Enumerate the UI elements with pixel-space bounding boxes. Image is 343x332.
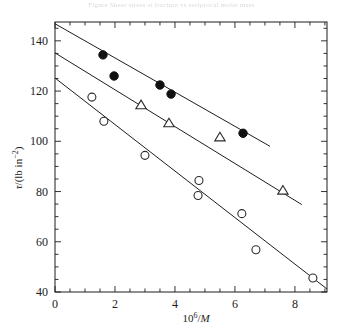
data-markers — [88, 51, 317, 282]
axis-ticks — [55, 22, 327, 292]
marker-open-circle — [88, 93, 96, 101]
axis-tick-labels: 40608010012014002468 — [30, 34, 298, 311]
marker-filled-circle — [156, 81, 164, 89]
marker-filled-circle — [167, 90, 175, 98]
marker-open-circle — [238, 210, 246, 218]
marker-open-triangle — [164, 118, 174, 127]
marker-filled-circle — [239, 129, 247, 137]
marker-filled-circle — [99, 51, 107, 59]
fit-lines — [55, 24, 327, 289]
marker-open-triangle — [278, 186, 288, 195]
fit-line-open-triangles — [55, 53, 302, 205]
svg-text:τ/(lb in−2): τ/(lb in−2) — [11, 146, 26, 189]
marker-open-circle — [309, 274, 317, 282]
fit-line-open-circles — [55, 78, 327, 289]
y-tick-label: 40 — [36, 285, 48, 299]
x-tick-label: 6 — [232, 297, 238, 311]
y-tick-label: 60 — [36, 235, 48, 249]
marker-filled-circle — [110, 72, 118, 80]
x-label-symbol: M — [199, 312, 210, 324]
marker-open-triangle — [215, 132, 225, 141]
marker-open-circle — [100, 117, 108, 125]
x-axis-label: 106/M — [182, 311, 210, 325]
plot-frame — [55, 22, 327, 292]
y-label-close: ) — [12, 146, 25, 150]
marker-open-circle — [195, 176, 203, 184]
x-tick-label: 2 — [112, 297, 118, 311]
x-tick-label: 8 — [292, 297, 298, 311]
y-tick-label: 80 — [36, 185, 48, 199]
plot-border — [55, 22, 327, 292]
marker-open-circle — [252, 246, 260, 254]
svg-text:106/M: 106/M — [182, 311, 210, 325]
marker-open-circle — [141, 151, 149, 159]
x-label-base: 10 — [182, 312, 194, 324]
y-tick-label: 100 — [30, 134, 48, 148]
y-label-exponent: −2 — [11, 150, 20, 159]
plot-svg: 40608010012014002468 τ/(lb in−2) 106/M — [0, 0, 343, 332]
y-label-unit: (lb in — [12, 158, 25, 182]
x-tick-label: 0 — [52, 297, 58, 311]
y-axis-label: τ/(lb in−2) — [11, 146, 26, 189]
x-tick-label: 4 — [172, 297, 178, 311]
marker-open-triangle — [136, 100, 146, 109]
marker-open-circle — [194, 192, 202, 200]
y-tick-label: 120 — [30, 84, 48, 98]
y-tick-label: 140 — [30, 34, 48, 48]
scatter-plot-figure: 40608010012014002468 τ/(lb in−2) 106/M — [0, 0, 343, 332]
